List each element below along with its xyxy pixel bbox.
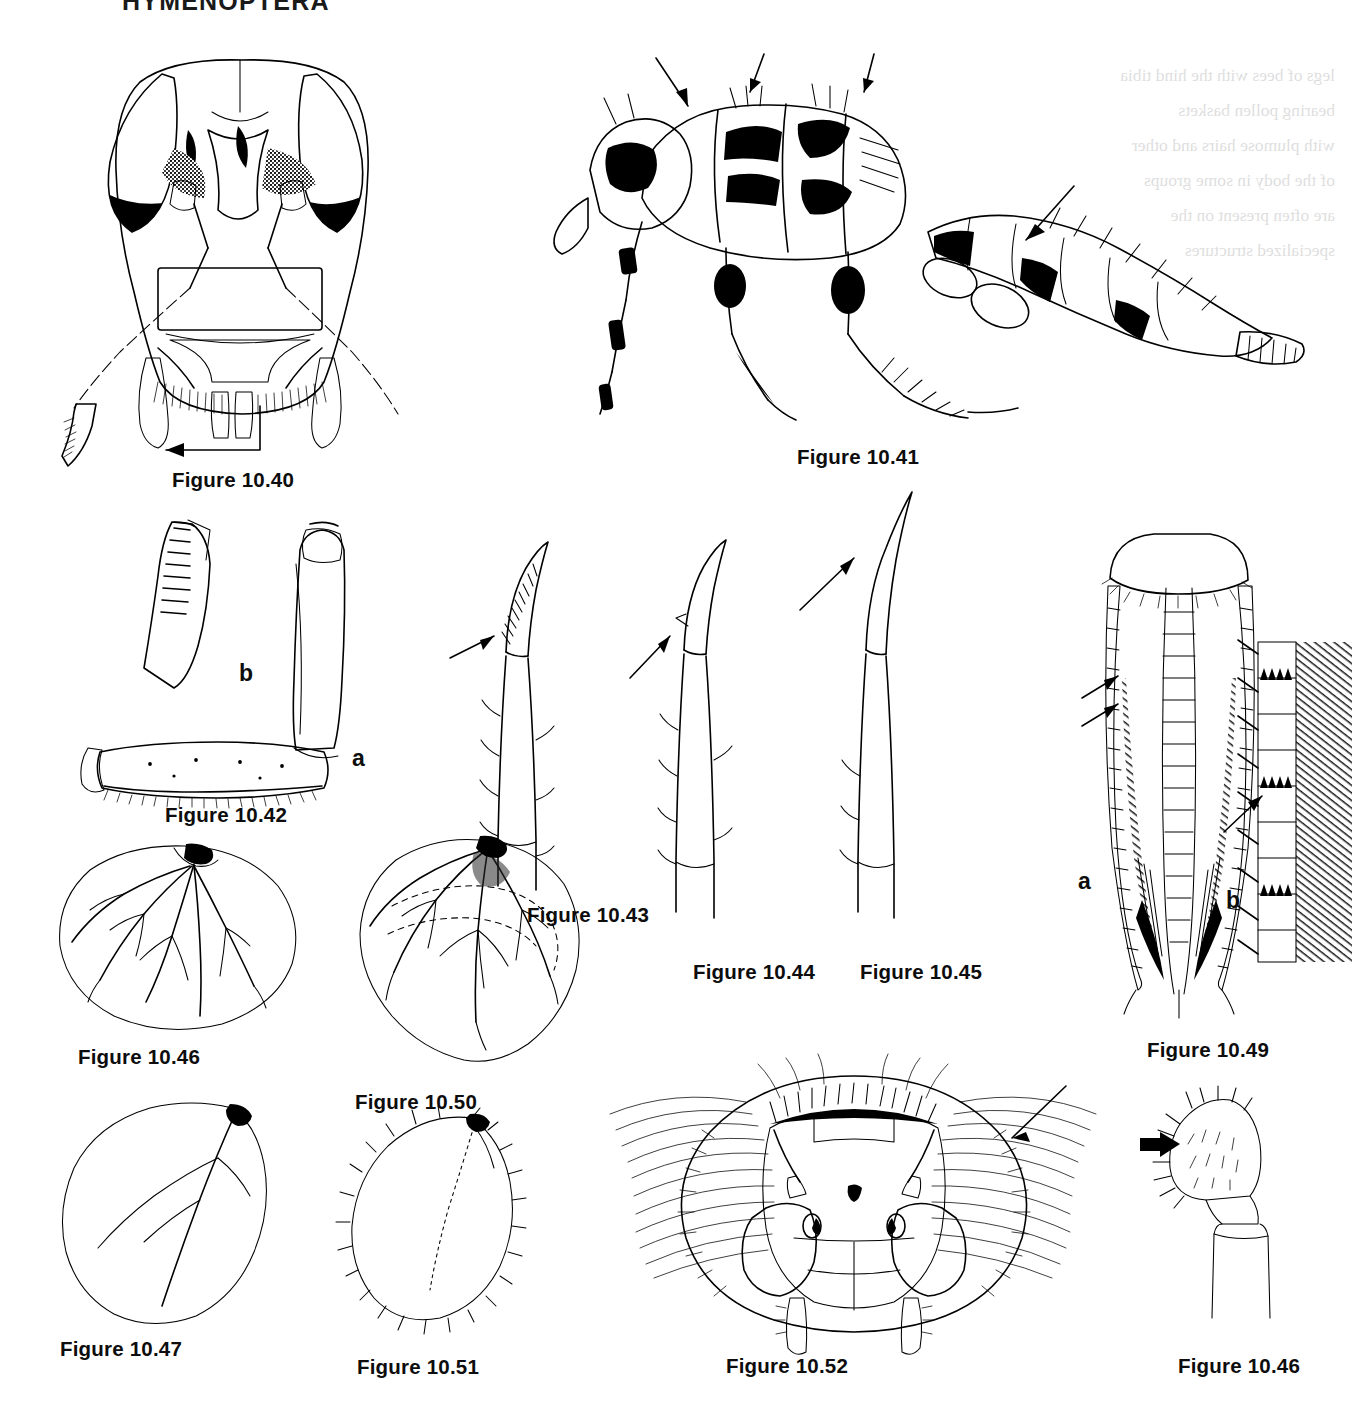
galea-left	[139, 358, 168, 448]
figure-10-40-illustration	[62, 52, 462, 472]
arrow-petiole	[1026, 186, 1074, 240]
wing-base-sclerite	[184, 844, 213, 865]
mouthpart-shading	[170, 340, 310, 382]
apical-lobe	[1170, 1100, 1261, 1201]
wing-vein-branches	[88, 894, 266, 1008]
costal-vein	[474, 1126, 494, 1168]
caption-figure-10-41: Figure 10.41	[797, 445, 919, 469]
frons-shading-right	[262, 148, 316, 195]
head-capsule	[116, 60, 368, 414]
wing-membrane	[60, 846, 296, 1030]
figure-10-44-illustration	[630, 540, 760, 940]
lancet-annuli	[1163, 612, 1195, 942]
compound-eye-lateral	[605, 142, 656, 192]
sublabel-10-42-a: a	[352, 745, 365, 772]
vestigial-vein	[430, 1126, 474, 1290]
tibial-comb-detail	[144, 522, 210, 688]
wing-base-sclerite	[466, 1114, 490, 1132]
segment-neck	[1206, 1196, 1258, 1224]
arrow-to-claw-comb	[450, 636, 494, 658]
claw-base	[866, 650, 886, 655]
sublabel-10-49-b: b	[1226, 887, 1240, 914]
antenna-left	[774, 1130, 806, 1198]
mandible-detail-inset	[62, 404, 96, 466]
figure-10-41-illustration	[530, 52, 1320, 422]
maxillary-palp-left	[158, 348, 194, 388]
figure-10-45-illustration	[800, 490, 940, 940]
caption-figure-10-40: Figure 10.40	[172, 468, 294, 492]
foreleg	[598, 222, 642, 414]
arrow-to-sheath-lower	[1082, 704, 1118, 726]
claw-base	[506, 652, 528, 657]
caption-figure-10-44: Figure 10.44	[693, 960, 815, 984]
tibia-inner-edge	[706, 656, 714, 918]
tibial-joint	[676, 862, 714, 868]
figure-10-52-illustration	[594, 1058, 1114, 1358]
tibia-outer-edge	[676, 654, 684, 912]
midleg	[714, 248, 796, 420]
tibial-setae-inner	[714, 746, 732, 840]
arrow-to-claw	[800, 558, 854, 610]
figure-10-48-illustration	[40, 1100, 290, 1335]
antenna-right	[902, 1130, 934, 1198]
wing-membrane	[352, 1117, 513, 1320]
wing-veins	[72, 864, 254, 1016]
frons-shading-left	[162, 148, 205, 198]
caption-figure-10-49: Figure 10.49	[1147, 1038, 1269, 1062]
sublabel-10-42-b: b	[239, 660, 253, 687]
figure-10-49-illustration	[1082, 528, 1352, 1018]
labrum	[158, 268, 322, 330]
caption-figure-10-48: Figure 10.47	[60, 1337, 182, 1361]
tibial-setae	[658, 714, 678, 864]
frons-suture	[212, 112, 268, 121]
tarsal-claw	[866, 492, 912, 654]
wing-veins	[370, 848, 550, 1022]
closed-cell-outline	[388, 886, 558, 970]
labrum-margin	[166, 334, 314, 343]
galea-right	[312, 358, 341, 448]
median-ocellus	[848, 1184, 862, 1202]
sheath-tip-right	[1222, 990, 1234, 1014]
sheath-tip-left	[1124, 990, 1136, 1014]
setal-fringe	[154, 382, 326, 414]
figure-10-47-illustration	[48, 840, 308, 1040]
wing-vein-branches	[98, 1158, 250, 1248]
main-longitudinal-vein	[162, 1112, 236, 1306]
lancet-right	[1184, 588, 1196, 994]
wing-vein-branches	[386, 900, 558, 1050]
caption-figure-10-45: Figure 10.45	[860, 960, 982, 984]
tibial-joint	[858, 862, 894, 868]
ocellus-right	[236, 126, 248, 168]
sublabel-10-49-a: a	[1078, 868, 1091, 895]
arrow-propodeum	[863, 54, 874, 92]
hind-tibia	[293, 522, 344, 750]
figure-10-51-illustration	[336, 1110, 546, 1340]
figure-10-42-illustration	[78, 520, 378, 800]
caption-figure-10-51: Figure 10.51	[357, 1355, 479, 1379]
tibial-setae	[840, 760, 860, 864]
apex-setae	[1102, 578, 1252, 608]
tibia-outer-edge	[858, 654, 866, 912]
figure-10-46-illustration	[1140, 1090, 1340, 1320]
arrow-to-claw-tooth	[630, 636, 670, 678]
marginal-fringe	[336, 1106, 526, 1334]
lancet-left	[1162, 588, 1174, 994]
wing-base-sclerite	[226, 1104, 252, 1126]
gaster-spines	[1050, 208, 1216, 310]
tarsal-claw	[684, 540, 726, 654]
basitarsus	[81, 742, 328, 808]
comb-plate-edge	[188, 520, 210, 560]
tibia-inner-edge	[886, 656, 894, 918]
figure-10-50-illustration	[330, 830, 590, 1075]
plumose-hair-halo	[610, 1054, 1096, 1278]
wing-membrane	[360, 839, 579, 1061]
caption-figure-10-47: Figure 10.46	[78, 1045, 200, 1069]
labial-palp-right	[235, 392, 253, 438]
mandible-lateral	[554, 198, 588, 254]
head-setae	[604, 94, 634, 124]
compound-eye-left	[100, 74, 177, 242]
abdomen-apex	[1110, 534, 1248, 594]
propodeum-ridges	[860, 138, 900, 192]
arrow-to-sheath-upper	[1082, 676, 1118, 698]
caption-figure-10-46-main: Figure 10.46	[1178, 1354, 1300, 1378]
